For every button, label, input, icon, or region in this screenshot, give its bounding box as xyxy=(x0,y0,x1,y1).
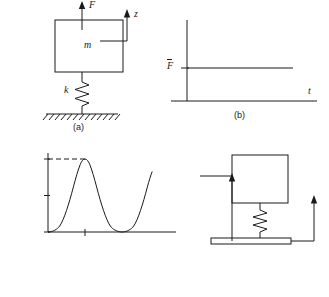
panel-a-caption: (a) xyxy=(73,122,84,132)
base-platform-d xyxy=(211,238,291,244)
x-axis-arrow-head-d xyxy=(311,195,317,204)
force-label-a: F xyxy=(89,0,95,10)
mass-label-a: m xyxy=(84,39,91,50)
panel-c-response-curve xyxy=(48,159,152,232)
z-axis-arrow-head-a xyxy=(124,9,130,18)
force-arrow-head-a xyxy=(79,1,85,9)
spring-d xyxy=(253,203,267,238)
panel-b-caption: (b) xyxy=(234,110,245,120)
z-coordinate-label-a: z xyxy=(134,8,138,19)
panel-d: m k y x (d) xyxy=(190,150,329,297)
spring-label-a: k xyxy=(64,84,68,95)
panel-b-y-axis-label: F xyxy=(167,59,173,71)
mass-block-d xyxy=(232,155,288,203)
panel-a-drawing xyxy=(0,0,165,135)
panel-a: F m k z (a) xyxy=(0,0,165,135)
panel-b: F t (b) xyxy=(165,0,329,135)
ground-hatching-a xyxy=(43,114,120,120)
panel-d-drawing xyxy=(190,150,329,297)
spring-a xyxy=(75,72,89,114)
panel-b-chart xyxy=(165,0,329,135)
panel-c: z(t) zs 2 1 0 π ωn t (c) xyxy=(0,150,190,297)
vibration-step-response-figure: F m k z (a) F t (b) xyxy=(0,0,329,297)
panel-b-x-axis-label: t xyxy=(308,85,311,96)
y-axis-arrow-head-d xyxy=(229,173,235,182)
panel-c-chart xyxy=(0,150,190,297)
